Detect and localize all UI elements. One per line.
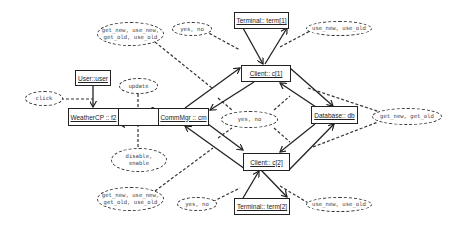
object-terminal-2[interactable]: Terminal:: term[2] bbox=[234, 198, 290, 215]
message-update: update bbox=[119, 78, 158, 94]
message-bottom-left: get_new, use_new, get_old, use_old bbox=[97, 187, 164, 211]
link-client2-to-cm bbox=[185, 126, 245, 169]
dash-db-2 bbox=[313, 122, 378, 147]
object-client-2[interactable]: Client:: c[2] bbox=[243, 153, 290, 171]
object-terminal-1[interactable]: Terminal:: term[1] bbox=[234, 12, 289, 29]
link-cm-to-client1 bbox=[185, 68, 240, 108]
message-click: click bbox=[25, 91, 63, 106]
link-client2-to-db bbox=[289, 124, 334, 170]
object-client-1[interactable]: Client:: c[1] bbox=[241, 65, 291, 82]
message-top-yes-no: yes, no bbox=[172, 22, 212, 36]
link-client1-to-cm bbox=[210, 82, 254, 110]
link-term1-to-client1 bbox=[243, 28, 263, 64]
dash-top-yes-no bbox=[205, 31, 240, 50]
dash-center-4 bbox=[274, 128, 290, 142]
object-weathercp[interactable]: WeatherCP :: f2 bbox=[68, 108, 119, 126]
message-bottom-yes-no: yes, no bbox=[177, 197, 217, 211]
object-middle-empty[interactable] bbox=[118, 108, 159, 126]
object-database[interactable]: Database:: db bbox=[311, 106, 358, 124]
message-center-yes-no: yes, no bbox=[221, 111, 278, 128]
link-client1-to-term1 bbox=[265, 28, 287, 64]
message-disable-enable: disable, enable bbox=[111, 148, 167, 172]
message-top-left: get_new, use_new, get_old, use_old bbox=[97, 22, 164, 46]
link-client1-to-db bbox=[290, 68, 333, 106]
object-commmgr[interactable]: CommMgr :: cm bbox=[158, 108, 209, 126]
message-bottom-right: use_new, use_old bbox=[306, 197, 372, 212]
message-db-right: get_new, get_old bbox=[372, 108, 442, 125]
link-client2-to-term2 bbox=[261, 170, 287, 197]
dash-top-right bbox=[280, 31, 310, 47]
message-top-right: use_new, use_old bbox=[306, 21, 372, 36]
link-term2-to-client2 bbox=[243, 171, 259, 198]
dash-center-2 bbox=[274, 96, 290, 110]
dash-top-left bbox=[155, 42, 212, 88]
object-user[interactable]: User::user bbox=[75, 70, 111, 86]
